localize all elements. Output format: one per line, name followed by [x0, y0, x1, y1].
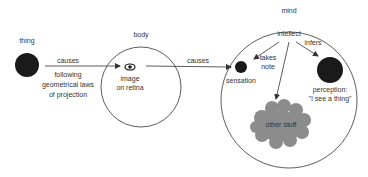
mind-label: mind — [281, 7, 296, 14]
mind-node: mind intellect takes note infers sensati… — [221, 7, 357, 168]
projection-label-line3: of projection — [49, 91, 87, 99]
takes-note-label-line2: note — [261, 63, 275, 70]
sensation-dot-icon — [235, 61, 247, 73]
other-stuff-label: other stuff — [265, 121, 296, 128]
thing-dot-icon — [15, 53, 39, 77]
image-label-line1: image — [120, 75, 139, 83]
body-node: body image on retina — [101, 31, 181, 127]
causes-label-2: causes — [187, 57, 210, 64]
perception-label-line1: perception: — [313, 86, 348, 94]
thing-node: thing — [15, 37, 39, 77]
takes-note-label-line1: takes — [260, 54, 277, 61]
intellect-label: intellect — [277, 30, 301, 37]
diagram-canvas: thing causes following geometrical laws … — [0, 0, 368, 177]
image-label-line2: on retina — [116, 84, 143, 91]
body-label: body — [133, 31, 149, 39]
projection-label-line1: following — [54, 71, 81, 79]
projection-label-line2: geometrical laws — [42, 81, 95, 89]
causes-label-1: causes — [57, 57, 80, 64]
sensation-label: sensation — [226, 77, 256, 84]
perception-dot-icon — [317, 57, 343, 83]
arrow-body-to-sensation: causes — [146, 57, 231, 67]
infers-label: infers — [304, 39, 322, 46]
eye-icon — [125, 64, 135, 70]
arrow-intellect-to-other-stuff — [276, 42, 289, 99]
thing-label: thing — [19, 37, 34, 45]
perception-label-line2: "I see a thing" — [308, 95, 352, 103]
